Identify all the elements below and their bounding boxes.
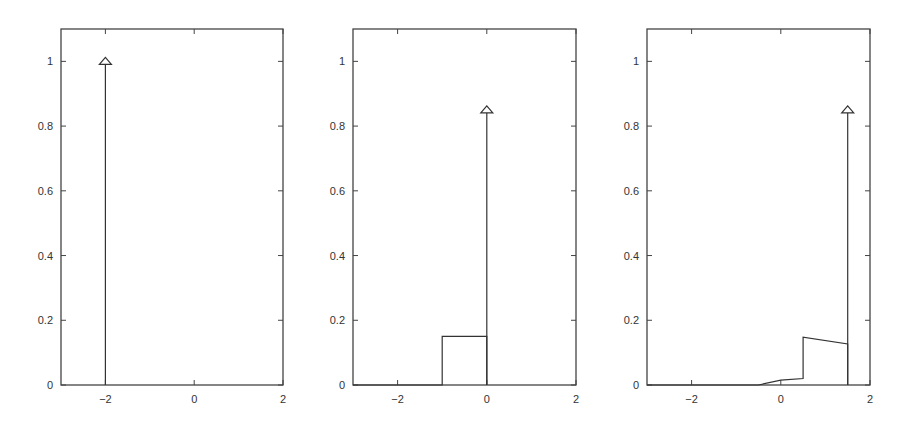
y-tick-label: 1: [339, 55, 345, 67]
panel-1: 00.20.40.60.81−202: [38, 29, 286, 405]
density-line: [647, 337, 848, 385]
x-tick-label: 0: [484, 393, 490, 405]
y-tick-label: 0.4: [38, 250, 53, 262]
y-tick-label: 1: [47, 55, 53, 67]
y-tick-label: 0.6: [330, 185, 345, 197]
x-tick-label: −2: [99, 393, 112, 405]
figure: 00.20.40.60.81−202 00.20.40.60.81−202 00…: [0, 0, 904, 421]
x-tick-label: 2: [573, 393, 579, 405]
triangle-arrow-icon: [99, 57, 111, 64]
x-tick-label: 2: [867, 393, 873, 405]
x-tick-label: −2: [685, 393, 698, 405]
y-tick-label: 0: [339, 379, 345, 391]
y-tick-label: 0.8: [330, 120, 345, 132]
x-tick-label: 0: [778, 393, 784, 405]
y-tick-label: 0.4: [624, 250, 639, 262]
axes-box: [353, 29, 576, 385]
axes-box: [647, 29, 870, 385]
density-line: [353, 336, 487, 385]
triangle-arrow-icon: [481, 106, 493, 113]
x-tick-label: −2: [391, 393, 404, 405]
y-tick-label: 1: [633, 55, 639, 67]
axes-box: [61, 29, 283, 385]
y-tick-label: 0.4: [330, 250, 345, 262]
y-tick-label: 0.2: [38, 314, 53, 326]
y-tick-label: 0.8: [624, 120, 639, 132]
y-tick-label: 0: [47, 379, 53, 391]
panel-3: 00.20.40.60.81−202: [624, 29, 873, 405]
y-tick-label: 0.6: [624, 185, 639, 197]
y-tick-label: 0.8: [38, 120, 53, 132]
x-tick-label: 2: [280, 393, 286, 405]
triangle-arrow-icon: [842, 106, 854, 113]
y-tick-label: 0.2: [624, 314, 639, 326]
y-tick-label: 0: [633, 379, 639, 391]
y-tick-label: 0.6: [38, 185, 53, 197]
panel-2: 00.20.40.60.81−202: [330, 29, 579, 405]
y-tick-label: 0.2: [330, 314, 345, 326]
x-tick-label: 0: [191, 393, 197, 405]
